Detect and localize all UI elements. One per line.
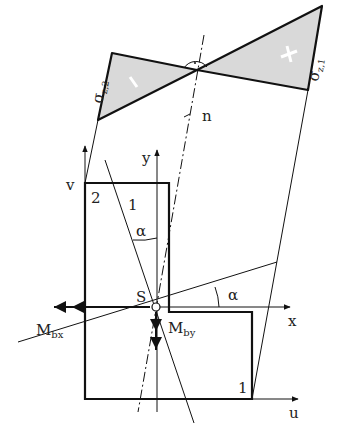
n-axis-tick xyxy=(184,114,190,117)
diagram-canvas: σz,2 σz,1 n y v x u 2 1 1 α α S Mbx Mby xyxy=(0,0,343,429)
moment-mby-arrow xyxy=(150,312,162,350)
projection-line-corner-2 xyxy=(85,120,98,183)
tension-triangle xyxy=(197,6,322,90)
centroid-label: S xyxy=(136,288,146,306)
projection-line-corner-1 xyxy=(252,90,308,399)
corner-1-label: 1 xyxy=(238,379,248,397)
alpha-right-label: α xyxy=(228,286,238,304)
line-1-label: 1 xyxy=(128,196,138,214)
alpha-arc-right xyxy=(215,287,219,307)
mby-label: Mby xyxy=(168,319,196,338)
mbx-label: Mbx xyxy=(36,321,64,340)
corner-2-label: 2 xyxy=(91,189,101,207)
u-axis-label: u xyxy=(289,404,299,422)
n-axis-label: n xyxy=(202,107,212,125)
compression-triangle xyxy=(98,53,197,120)
alpha-upper-label: α xyxy=(136,222,146,240)
x-axis-label: x xyxy=(288,312,297,330)
centroid-point xyxy=(152,303,160,311)
v-axis-label: v xyxy=(65,176,75,194)
stress-diagram xyxy=(98,6,322,120)
l-cross-section xyxy=(85,183,252,399)
y-axis-label: y xyxy=(141,149,151,167)
